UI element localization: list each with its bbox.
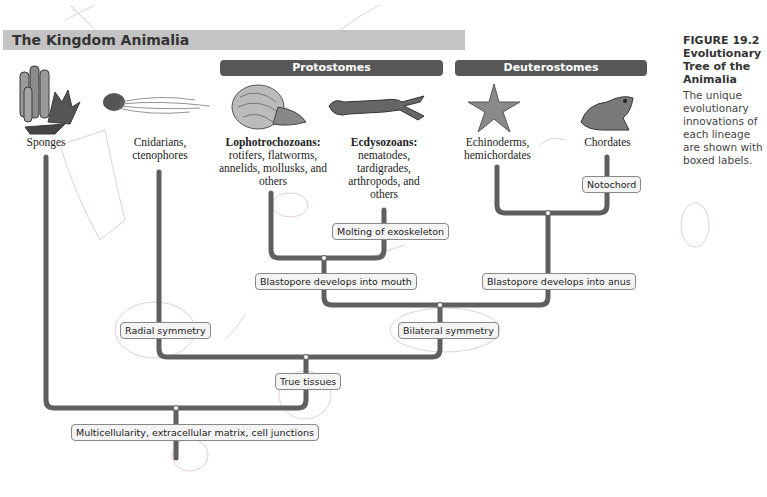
innovation-molting: Molting of exoskeleton xyxy=(332,223,449,240)
innovation-notochord: Notochord xyxy=(582,176,641,193)
jellyfish-icon xyxy=(100,90,215,122)
lineage-echinoderms: Echinoderms, hemichordates xyxy=(455,136,540,162)
innovation-multicellularity: Multicellularity, extracellular matrix, … xyxy=(71,424,319,441)
lineage-lophotrochozoans-members: rotifers, flatworms, annelids, mollusks,… xyxy=(219,149,327,187)
lineage-ecdysozoans-members: nematodes, tardigrades, arthropods, and … xyxy=(348,149,420,200)
nautilus-icon xyxy=(228,82,308,132)
node-bilateria xyxy=(438,303,443,308)
starfish-icon xyxy=(466,82,522,134)
node-eumetazoa xyxy=(304,355,309,360)
lineage-chordates: Chordates xyxy=(575,136,640,149)
lineage-ecdysozoans: Ecdysozoans: nematodes, tardigrades, art… xyxy=(340,136,428,201)
lineage-sponges: Sponges xyxy=(5,136,87,149)
lineage-ecdysozoans-name: Ecdysozoans: xyxy=(351,136,417,148)
lineage-lophotrochozoans-name: Lophotrochozoans: xyxy=(226,136,321,148)
innovation-blastopore-mouth: Blastopore develops into mouth xyxy=(255,273,417,290)
lineage-cnidarians: Cnidarians, ctenophores xyxy=(120,136,200,162)
lineage-lophotrochozoans: Lophotrochozoans: rotifers, flatworms, a… xyxy=(218,136,328,188)
frog-icon xyxy=(573,86,637,134)
crayfish-icon xyxy=(324,88,429,128)
innovation-blastopore-anus: Blastopore develops into anus xyxy=(482,273,636,290)
innovation-bilateral-symmetry: Bilateral symmetry xyxy=(398,322,499,339)
node-deuterostomes xyxy=(546,211,551,216)
innovation-true-tissues: True tissues xyxy=(275,373,341,390)
sponge-icon xyxy=(10,62,82,142)
innovation-radial-symmetry: Radial symmetry xyxy=(120,322,211,339)
node-root xyxy=(174,406,179,411)
node-protostomes xyxy=(322,256,327,261)
phylogenetic-tree xyxy=(0,0,767,497)
